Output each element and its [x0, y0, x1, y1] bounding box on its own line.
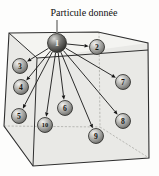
particle-number: 4: [19, 83, 23, 92]
particle-number: 9: [94, 132, 98, 141]
particle-1: 1: [48, 34, 67, 53]
particle-10: 10: [38, 118, 53, 133]
particle-5: 5: [12, 109, 27, 124]
particle-4: 4: [14, 80, 29, 95]
particle-number: 6: [63, 104, 67, 113]
cube-box: [4, 32, 149, 166]
particle-6: 6: [58, 101, 73, 116]
particle-number: 8: [121, 117, 125, 126]
particle-number: 10: [42, 121, 48, 128]
particle-cube-diagram: 12345678910 Particule donnée: [0, 0, 159, 176]
particle-number: 3: [18, 62, 22, 71]
particle-number: 1: [55, 38, 60, 48]
particle-3: 3: [13, 59, 28, 74]
figure-canvas: 12345678910 Particule donnée: [0, 0, 159, 176]
particle-2: 2: [90, 40, 105, 55]
particle-number: 5: [17, 112, 21, 121]
particle-9: 9: [89, 129, 104, 144]
particle-8: 8: [116, 114, 131, 129]
given-particle-label: Particule donnée: [51, 7, 118, 18]
particle-number: 7: [121, 78, 125, 87]
particle-number: 2: [95, 43, 99, 52]
particle-7: 7: [116, 75, 131, 90]
